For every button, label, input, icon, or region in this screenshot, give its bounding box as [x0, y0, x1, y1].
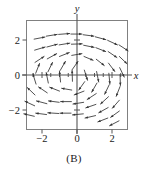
field-arrow	[111, 111, 120, 117]
field-arrow	[98, 118, 108, 122]
field-arrow	[105, 85, 110, 94]
field-arrow	[36, 100, 47, 103]
arrow-head	[103, 49, 106, 51]
arrow-head	[60, 112, 63, 114]
figure-caption: (B)	[0, 152, 148, 164]
arrow-head	[79, 33, 82, 35]
field-arrow	[79, 82, 85, 90]
field-arrow	[108, 40, 118, 45]
y-tick-label-2: 2	[15, 35, 20, 46]
arrow-head	[67, 33, 70, 35]
field-arrow	[92, 83, 97, 92]
field-arrow	[36, 63, 40, 73]
field-arrow	[119, 56, 127, 63]
field-arrow	[36, 112, 47, 114]
field-arrow	[74, 91, 84, 95]
arrow-head	[71, 70, 73, 73]
field-arrow	[48, 100, 59, 102]
field-arrow	[46, 73, 49, 84]
arrow-head	[66, 53, 69, 55]
x-axis-label: x	[133, 70, 139, 81]
field-arrow	[85, 116, 96, 119]
arrow-head	[79, 43, 82, 45]
field-arrow	[34, 36, 45, 39]
field-arrow	[119, 45, 128, 51]
tick-marks-group	[23, 40, 121, 134]
field-arrow	[50, 87, 60, 91]
arrow-head	[119, 83, 121, 86]
field-arrow	[47, 44, 58, 47]
field-arrow	[97, 72, 100, 83]
field-arrow	[71, 33, 82, 35]
field-arrow	[27, 88, 35, 95]
direction-field-plot: −2 0 2 2 0 −2 x y	[0, 0, 148, 152]
field-arrow	[100, 97, 108, 104]
field-arrow	[84, 45, 95, 48]
field-arrow	[99, 108, 108, 113]
field-arrow	[96, 59, 104, 65]
field-arrow	[60, 61, 65, 70]
x-tick-label--2: −2	[36, 133, 47, 144]
field-arrow	[86, 104, 96, 108]
arrow-head	[48, 112, 51, 114]
field-arrow	[62, 88, 72, 90]
field-arrow	[116, 87, 120, 97]
arrow-head	[86, 77, 88, 80]
axes-group	[22, 14, 132, 134]
field-arrow	[48, 112, 59, 114]
field-arrow	[84, 56, 93, 60]
y-tick-label--2: −2	[9, 105, 20, 116]
field-arrow	[48, 62, 53, 71]
tick-labels-group: −2 0 2 2 0 −2	[9, 35, 115, 144]
field-arrow	[59, 42, 70, 44]
field-arrow	[59, 33, 70, 35]
field-arrow	[72, 113, 83, 115]
x-tick-label-0: 0	[74, 133, 79, 144]
field-arrow	[47, 54, 56, 59]
field-arrow	[46, 34, 57, 36]
field-arrow	[60, 112, 71, 114]
field-arrow	[39, 87, 48, 93]
field-arrow	[110, 121, 119, 126]
field-arrow	[73, 102, 84, 104]
field-arrow	[60, 53, 70, 57]
field-arrow	[109, 63, 115, 71]
field-arrow	[108, 52, 117, 58]
field-arrow	[59, 71, 61, 82]
field-arrow	[61, 100, 72, 102]
field-arrow	[71, 70, 73, 81]
y-axis-label: y	[74, 3, 80, 14]
field-arrow	[83, 35, 94, 37]
field-arrow	[24, 113, 35, 116]
arrow-head	[116, 93, 118, 96]
arrow-head	[98, 120, 101, 122]
field-arrow	[96, 48, 106, 52]
field-arrow	[112, 100, 119, 108]
field-arrow	[35, 47, 46, 50]
field-arrow	[35, 56, 44, 62]
field-arrow	[87, 94, 96, 100]
field-arrow	[95, 37, 106, 40]
direction-field-figure: −2 0 2 2 0 −2 x y (B)	[0, 0, 148, 175]
y-tick-label-0: 0	[15, 70, 20, 81]
arrow-head	[61, 100, 64, 102]
arrow-head	[37, 63, 39, 66]
arrow-head	[42, 47, 45, 49]
arrow-head	[50, 87, 53, 89]
arrow-head	[86, 106, 89, 108]
x-tick-label-2: 2	[109, 133, 114, 144]
arrow-field-group	[24, 33, 128, 126]
